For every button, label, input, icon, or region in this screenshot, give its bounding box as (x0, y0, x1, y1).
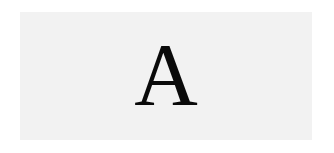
letter-glyph: A (20, 12, 312, 140)
letter-card: A (20, 12, 312, 140)
